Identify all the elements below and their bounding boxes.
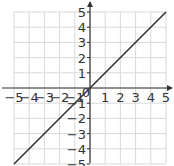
y-tick-label: 4	[78, 20, 86, 35]
y-tick-label: −4	[67, 142, 86, 157]
x-tick-label: 2	[116, 90, 124, 105]
x-tick-label: 3	[131, 90, 139, 105]
y-tick-label: 2	[78, 51, 86, 66]
y-tick-label: 1	[78, 66, 86, 81]
axes	[2, 1, 173, 163]
y-axis-arrow-icon	[87, 1, 93, 7]
x-tick-label: 5	[162, 90, 170, 105]
y-tick-label: 5	[78, 5, 86, 20]
graph: −5−4−3−2−1012345 54321−1−2−3−4−5	[0, 0, 174, 166]
x-tick-label: 1	[101, 90, 109, 105]
x-tick-label: 4	[147, 90, 155, 105]
y-tick-label: 3	[78, 35, 86, 50]
y-tick-label: −2	[67, 111, 86, 126]
y-tick-label: −5	[67, 157, 86, 166]
y-tick-label: −3	[67, 127, 86, 142]
